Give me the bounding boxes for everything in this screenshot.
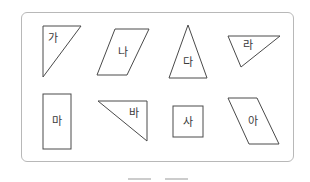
shape-label: 사: [183, 116, 193, 129]
shapes-diagram: 가 나 다 라 마 바 사 아: [0, 0, 310, 182]
shape-da: 다: [169, 25, 207, 78]
shape-ga: 가: [43, 26, 81, 77]
right-triangle-shape: [98, 101, 147, 141]
shape-na: 나: [97, 29, 149, 75]
shape-label: 나: [118, 46, 128, 59]
shape-label: 가: [48, 32, 58, 45]
shape-label: 마: [52, 115, 62, 128]
shape-a: 아: [228, 98, 279, 144]
shape-label: 아: [248, 115, 258, 128]
shape-label: 바: [129, 107, 139, 120]
shape-ra: 라: [228, 36, 280, 67]
shape-label: 다: [183, 56, 193, 69]
shape-ba: 바: [98, 101, 147, 141]
triangle-shape: [228, 36, 280, 67]
shape-ma: 마: [43, 94, 71, 149]
isosceles-triangle-shape: [169, 25, 207, 78]
shape-label: 라: [243, 39, 253, 52]
shape-sa: 사: [173, 106, 203, 137]
